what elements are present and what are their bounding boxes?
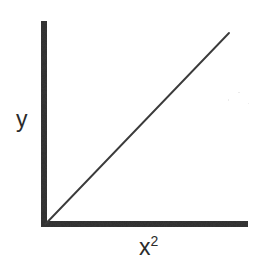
plot-area: y x2 <box>0 0 263 266</box>
x-axis-label-base: x <box>139 234 151 260</box>
y-axis-line <box>41 21 47 227</box>
x-axis-label: x2 <box>139 236 158 259</box>
x-axis-line <box>41 221 248 227</box>
figure-root: y x2 <box>0 0 263 266</box>
scan-speckle <box>228 92 249 104</box>
y-axis-label: y <box>16 108 28 131</box>
data-line-series-0 <box>46 33 230 224</box>
plot-svg <box>0 0 263 266</box>
x-axis-label-exponent: 2 <box>151 233 159 249</box>
